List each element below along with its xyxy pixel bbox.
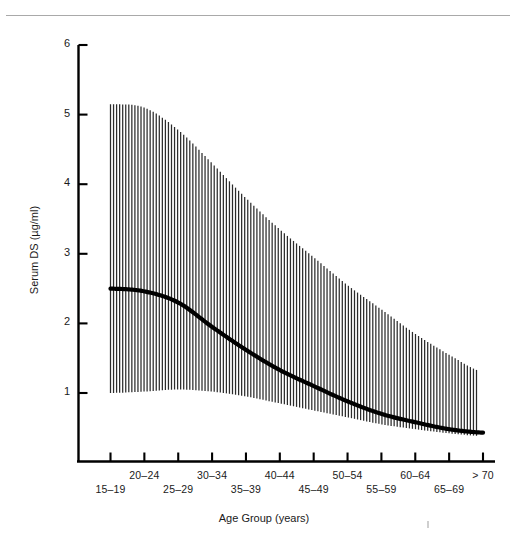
x-axis-category-label: 60–64 [400, 469, 430, 481]
x-axis-category-label: 25–29 [163, 483, 193, 495]
chart-plot-area: Serum DS (µg/ml) [0, 0, 528, 541]
y-axis-ticks [79, 45, 88, 393]
axes [77, 45, 495, 462]
y-axis-tick-label: 1 [56, 385, 70, 397]
y-axis-title: Serum DS (µg/ml) [28, 206, 40, 294]
x-axis-category-label: 45–49 [299, 483, 329, 495]
x-axis-category-label: 30–34 [197, 469, 227, 481]
x-axis-category-label: 15–19 [95, 483, 125, 495]
x-axis-category-label: 50–54 [332, 469, 362, 481]
serum-ds-chart-figure: Serum DS (µg/ml) 123456 15–1920–2425–293… [0, 0, 528, 541]
x-axis-category-label: 40–44 [265, 469, 295, 481]
y-axis-tick-label: 6 [56, 37, 70, 49]
x-axis-ticks [111, 453, 484, 462]
x-axis-category-label: > 70 [472, 469, 494, 481]
x-axis-title: Age Group (years) [0, 512, 528, 524]
x-axis-category-label: 55–59 [366, 483, 396, 495]
y-axis-tick-label: 4 [56, 176, 70, 188]
x-axis-category-label: 20–24 [129, 469, 159, 481]
page-speck-artifact [427, 521, 429, 528]
range-band-hatching [111, 104, 477, 436]
x-axis-category-label: 65–69 [434, 483, 464, 495]
x-axis-category-label: 35–39 [231, 483, 261, 495]
y-axis-tick-label: 5 [56, 107, 70, 119]
y-axis-tick-label: 3 [56, 246, 70, 258]
y-axis-tick-label: 2 [56, 315, 70, 327]
